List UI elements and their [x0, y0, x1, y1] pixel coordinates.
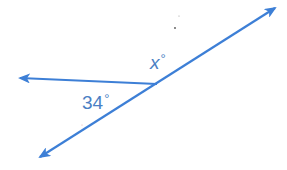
known-angle-label: 34° — [82, 92, 109, 112]
degree-symbol: ° — [161, 51, 166, 66]
angle-diagram — [0, 0, 287, 170]
speck-dot — [82, 125, 83, 126]
angle-variable: x — [150, 52, 160, 73]
speck-dot — [174, 27, 176, 29]
left-ray — [20, 78, 157, 84]
unknown-angle-label: x° — [150, 52, 166, 72]
degree-symbol: ° — [104, 91, 109, 106]
transversal-line — [40, 8, 275, 157]
angle-value: 34 — [82, 92, 103, 113]
speck-dot — [178, 15, 179, 16]
